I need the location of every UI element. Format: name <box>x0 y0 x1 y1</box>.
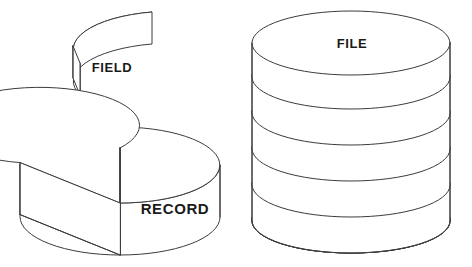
shape-field: FIELD <box>73 12 152 95</box>
field-outer-wall <box>73 12 152 95</box>
data-hierarchy-diagram: FIELD RECORD <box>0 0 472 267</box>
diagram-canvas: FIELD RECORD <box>0 0 472 267</box>
shape-file: FILE <box>252 11 450 253</box>
file-label: FILE <box>337 36 368 51</box>
field-label: FIELD <box>92 60 133 75</box>
shape-record: RECORD <box>0 87 220 255</box>
record-label: RECORD <box>141 200 210 217</box>
